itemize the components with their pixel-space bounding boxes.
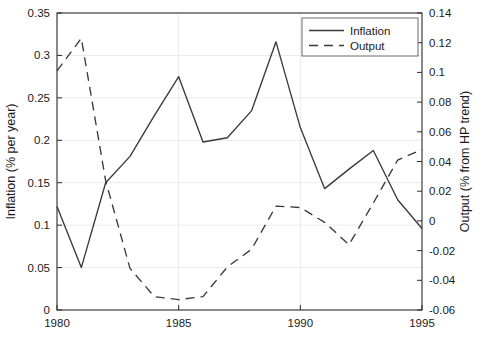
legend-label-inflation: Inflation [350, 25, 390, 37]
y-right-tick-label-6: 0.06 [429, 126, 451, 138]
y-right-tick-label-4: 0.02 [429, 185, 451, 197]
y-left-tick-label-7: 0.35 [28, 7, 50, 19]
y-left-tick-label-6: 0.3 [34, 49, 50, 61]
y-right-tick-label-2: -0.02 [429, 245, 455, 257]
x-tick-label-1: 1985 [166, 317, 192, 329]
y-axis-right-title: Output (% from HP trend) [458, 91, 472, 233]
legend-label-output: Output [350, 40, 385, 52]
y-axis-left-title: Inflation (% per year) [4, 103, 18, 219]
y-right-tick-label-7: 0.08 [429, 96, 451, 108]
y-right-tick-label-1: -0.04 [429, 274, 456, 286]
chart-figure: 1980198519901995 00.050.10.150.20.250.30… [0, 0, 485, 343]
y-right-tick-label-3: 0 [429, 215, 435, 227]
y-left-tick-label-1: 0.05 [28, 262, 50, 274]
y-left-tick-label-3: 0.15 [28, 177, 50, 189]
y-left-tick-label-4: 0.2 [34, 134, 50, 146]
y-right-tick-label-0: -0.06 [429, 304, 455, 316]
x-tick-label-2: 1990 [288, 317, 314, 329]
y-right-tick-label-8: 0.1 [429, 66, 445, 78]
y-left-tick-label-5: 0.25 [28, 92, 50, 104]
y-right-tick-label-9: 0.12 [429, 37, 451, 49]
y-left-tick-label-0: 0 [44, 304, 50, 316]
dual-axis-line-chart: 1980198519901995 00.050.10.150.20.250.30… [0, 0, 485, 343]
x-tick-label-0: 1980 [44, 317, 70, 329]
y-left-tick-label-2: 0.1 [34, 219, 50, 231]
chart-legend[interactable]: Inflation Output [302, 18, 418, 56]
y-right-tick-label-10: 0.14 [429, 7, 452, 19]
x-tick-label-3: 1995 [409, 317, 435, 329]
y-right-tick-label-5: 0.04 [429, 156, 452, 168]
